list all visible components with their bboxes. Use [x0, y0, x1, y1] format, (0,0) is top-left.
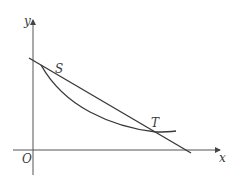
point-t-label: T — [151, 116, 160, 130]
origin-label: O — [22, 152, 32, 166]
coordinate-diagram: y x O S T — [0, 0, 238, 175]
point-s-label: S — [55, 62, 63, 76]
y-axis-label: y — [23, 14, 31, 28]
line-st — [29, 58, 191, 153]
x-axis-label: x — [219, 151, 226, 165]
